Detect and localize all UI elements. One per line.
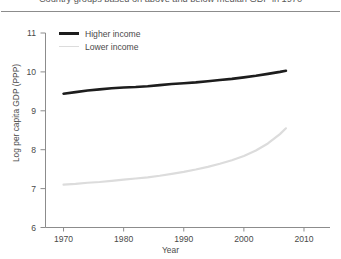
plot-area bbox=[0, 0, 341, 259]
x-axis-tick-1980: 1980 bbox=[104, 234, 144, 244]
y-axis-tick-6: 6 bbox=[14, 223, 36, 233]
series-line-higher-income bbox=[64, 71, 286, 94]
y-axis-tick-7: 7 bbox=[14, 184, 36, 194]
y-axis-title: Log per capita GDP (PPP) bbox=[11, 48, 21, 178]
x-axis-tick-2010: 2010 bbox=[284, 234, 324, 244]
x-axis-title: Year bbox=[0, 245, 341, 255]
series-line-lower-income bbox=[64, 128, 286, 184]
x-axis-tick-2000: 2000 bbox=[224, 234, 264, 244]
chart-figure: Country groups based on above and below … bbox=[0, 0, 341, 259]
x-axis-tick-1990: 1990 bbox=[164, 234, 204, 244]
y-axis-tick-11: 11 bbox=[14, 28, 36, 38]
x-axis-tick-1970: 1970 bbox=[44, 234, 84, 244]
